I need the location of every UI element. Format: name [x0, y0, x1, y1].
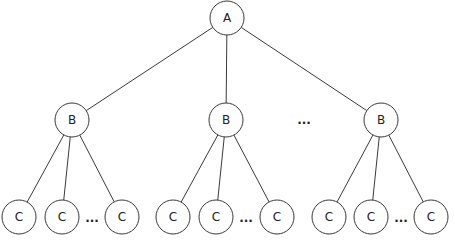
tree-diagram: ABBBCCCCCCCCC ............ — [0, 0, 454, 242]
node-c-group1-2: C — [45, 200, 79, 234]
level1-ellipsis: ... — [297, 113, 311, 127]
node-label: C — [427, 210, 435, 224]
node-b3: B — [364, 103, 398, 137]
node-c-group1-3: C — [105, 200, 139, 234]
node-label: C — [118, 210, 126, 224]
node-b1: B — [55, 103, 89, 137]
edge-b3-to-c3 — [389, 135, 423, 202]
edge-b3-to-c2 — [373, 137, 380, 200]
node-label: C — [169, 210, 177, 224]
node-label: C — [15, 210, 23, 224]
edge-a-to-b3 — [241, 27, 367, 110]
node-c-group3-1: C — [312, 200, 346, 234]
edge-a-to-b1 — [86, 27, 213, 110]
node-b2: B — [209, 103, 243, 137]
level2-ellipsis-group2: ... — [239, 211, 253, 225]
node-root-a: A — [210, 1, 244, 35]
node-label: C — [212, 210, 220, 224]
edge-b2-to-c3 — [234, 135, 269, 202]
node-c-group3-2: C — [354, 200, 388, 234]
tree-nodes: ABBBCCCCCCCCC — [2, 1, 448, 234]
node-label: B — [68, 113, 76, 127]
node-label: C — [58, 210, 66, 224]
node-label: C — [367, 210, 375, 224]
level2-ellipsis-group1: ... — [85, 211, 99, 225]
node-label: A — [223, 11, 232, 25]
node-c-group2-2: C — [199, 200, 233, 234]
edge-a-to-b2 — [226, 35, 227, 103]
edge-b1-to-c3 — [80, 135, 114, 202]
edge-b2-to-c1 — [181, 135, 218, 202]
node-label: C — [325, 210, 333, 224]
edge-b3-to-c1 — [337, 135, 373, 202]
node-label: B — [377, 113, 385, 127]
edge-b1-to-c2 — [64, 137, 71, 200]
edge-b1-to-c1 — [27, 135, 64, 202]
node-c-group2-1: C — [156, 200, 190, 234]
edge-b2-to-c2 — [218, 137, 225, 200]
node-c-group3-3: C — [414, 200, 448, 234]
level2-ellipsis-group3: ... — [394, 211, 408, 225]
node-label: C — [273, 210, 281, 224]
node-c-group1-1: C — [2, 200, 36, 234]
node-c-group2-3: C — [260, 200, 294, 234]
node-label: B — [222, 113, 230, 127]
